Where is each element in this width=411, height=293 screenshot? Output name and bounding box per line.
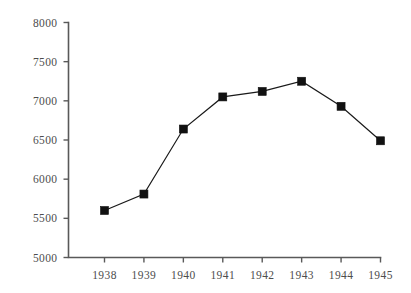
data-point-marker	[101, 207, 109, 215]
y-tick-label: 6000	[33, 173, 58, 185]
x-tick-label: 1940	[171, 269, 196, 281]
data-point-marker	[337, 102, 345, 110]
y-tick-label: 5000	[33, 252, 58, 264]
chart-axes	[69, 23, 381, 258]
x-tick-label: 1943	[289, 269, 314, 281]
y-axis-tick-labels: 5000550060006500700075008000	[33, 17, 58, 264]
x-tick-label: 1942	[250, 269, 275, 281]
data-point-markers	[101, 77, 385, 214]
data-point-marker	[179, 125, 187, 133]
chart-canvas: 5000550060006500700075008000 19381939194…	[0, 0, 411, 293]
y-tick-label: 6500	[33, 134, 58, 146]
x-tick-label: 1941	[210, 269, 235, 281]
y-tick-label: 8000	[33, 17, 58, 29]
data-point-marker	[219, 93, 227, 101]
data-point-marker	[140, 190, 148, 198]
axes-group	[69, 23, 381, 258]
data-series-group	[101, 77, 385, 214]
x-axis-tick-labels: 19381939194019411942194319441945	[92, 269, 393, 281]
x-tick-label: 1938	[92, 269, 117, 281]
x-tick-label: 1945	[368, 269, 393, 281]
line-chart: 5000550060006500700075008000 19381939194…	[0, 0, 411, 293]
y-tick-label: 7000	[33, 95, 58, 107]
data-point-marker	[258, 87, 266, 95]
data-point-marker	[298, 77, 306, 85]
x-tick-label: 1944	[329, 269, 354, 281]
y-tick-label: 5500	[33, 212, 58, 224]
data-point-marker	[377, 137, 385, 145]
x-tick-label: 1939	[132, 269, 157, 281]
y-tick-label: 7500	[33, 56, 58, 68]
